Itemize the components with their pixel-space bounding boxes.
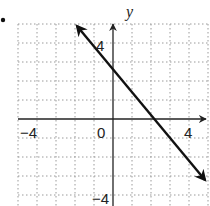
y-tick-label-neg4: −4 <box>92 190 109 206</box>
x-tick-label-4: 4 <box>184 124 192 141</box>
x-tick-label-neg4: −4 <box>20 124 37 141</box>
origin-label: 0 <box>97 124 105 141</box>
y-tick-label-4: 4 <box>96 37 104 54</box>
coordinate-plane: y 4 −4 0 4 −4 <box>0 0 210 206</box>
problem-bullet <box>1 18 5 22</box>
y-axis-label: y <box>124 3 134 21</box>
